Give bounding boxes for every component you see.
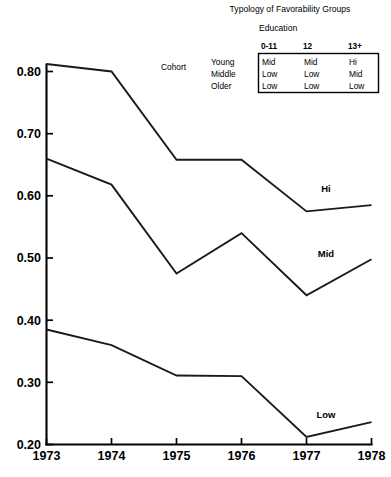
legend-cell-older-12: Low <box>304 81 320 91</box>
legend-col-header-12: 12 <box>303 42 313 51</box>
y-tick-label-0.50: 0.50 <box>17 251 41 265</box>
x-tick-label-1977: 1977 <box>293 449 321 463</box>
x-tick-label-1974: 1974 <box>98 449 126 463</box>
legend-cell-young-12: Mid <box>304 57 318 67</box>
y-tick-label-0.30: 0.30 <box>17 376 41 390</box>
legend-cell-middle-13plus: Mid <box>349 69 363 79</box>
legend-row-header-older: Older <box>211 81 232 91</box>
y-tick-label-0.70: 0.70 <box>17 127 41 141</box>
legend-cell-young-13plus: Hi <box>349 57 357 67</box>
legend-col-header-0-11: 0-11 <box>261 42 277 51</box>
typology-legend: Typology of Favorability Groups Educatio… <box>161 4 379 93</box>
y-tick-label-0.80: 0.80 <box>17 65 41 79</box>
y-tick-label-0.40: 0.40 <box>17 314 41 328</box>
series-label-mid: Mid <box>318 248 335 259</box>
legend-cell-middle-0-11: Low <box>262 69 278 79</box>
legend-row-header-middle: Middle <box>211 69 236 79</box>
series-labels: Hi Mid Low <box>317 183 337 420</box>
y-axis-labels: 0.80 0.70 0.60 0.50 0.40 0.30 0.20 <box>17 65 41 452</box>
legend-row-header-young: Young <box>211 57 235 67</box>
line-chart: 0.80 0.70 0.60 0.50 0.40 0.30 0.20 1973 … <box>0 0 391 477</box>
series-line-mid <box>47 159 372 296</box>
legend-cell-older-13plus: Low <box>349 81 365 91</box>
chart-figure: 0.80 0.70 0.60 0.50 0.40 0.30 0.20 1973 … <box>0 0 391 477</box>
series-line-low <box>47 329 372 437</box>
legend-cell-older-0-11: Low <box>262 81 278 91</box>
series-label-hi: Hi <box>321 183 331 194</box>
series-label-low: Low <box>317 409 337 420</box>
legend-education-header: Education <box>259 23 297 33</box>
legend-title: Typology of Favorability Groups <box>230 4 351 14</box>
legend-cohort-header: Cohort <box>161 62 187 72</box>
x-tick-label-1975: 1975 <box>163 449 191 463</box>
legend-col-header-13plus: 13+ <box>348 42 362 51</box>
x-tick-label-1978: 1978 <box>358 449 386 463</box>
x-axis-labels: 1973 1974 1975 1976 1977 1978 <box>33 449 386 463</box>
x-tick-label-1976: 1976 <box>228 449 256 463</box>
legend-cell-middle-12: Low <box>304 69 320 79</box>
x-tick-label-1973: 1973 <box>33 449 61 463</box>
y-tick-label-0.60: 0.60 <box>17 189 41 203</box>
legend-cell-young-0-11: Mid <box>262 57 276 67</box>
